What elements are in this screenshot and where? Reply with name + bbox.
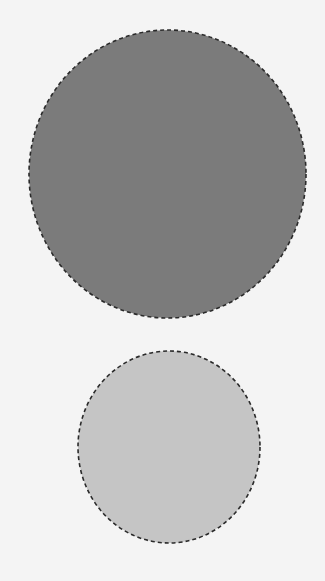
large-circle xyxy=(29,30,306,318)
small-circle xyxy=(78,351,260,543)
diagram-canvas xyxy=(0,0,325,581)
diagram-svg xyxy=(0,0,325,581)
